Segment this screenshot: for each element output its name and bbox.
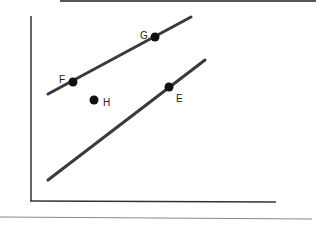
top-edge-bar [60,0,316,2]
bottom-separator [0,217,312,219]
label-e: E [176,93,183,104]
point-g [151,33,160,42]
label-f: F [59,74,65,85]
point-e [165,83,174,92]
x-axis [30,201,276,202]
diagram-canvas: F G H E [0,0,322,226]
point-f [69,78,78,87]
label-g: G [140,30,148,41]
point-h [90,96,99,105]
label-h: H [103,97,110,108]
